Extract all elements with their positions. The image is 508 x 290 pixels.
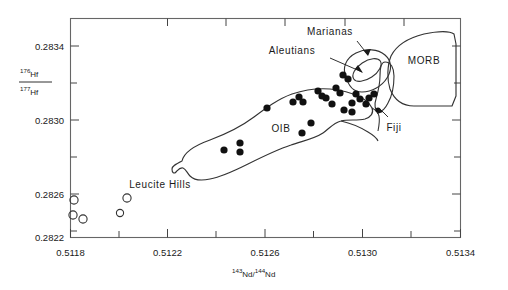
- x-title-base-nd1: Nd/: [242, 270, 255, 279]
- y-title-sup-177: 177: [20, 85, 31, 92]
- leader-arrowhead-marianas: [363, 49, 371, 56]
- label-marianas: Marianas: [307, 26, 353, 37]
- y-title-sup-176: 176: [20, 67, 31, 74]
- plot-frame: [71, 19, 461, 238]
- leader-line-fiji: [380, 109, 388, 117]
- x-axis-title: 143Nd/144Nd: [232, 267, 275, 279]
- data-point-filled: [340, 106, 347, 113]
- field-junction-stroke-2: [341, 121, 378, 141]
- x-title-sup-143: 143: [232, 267, 243, 274]
- svg-text:177Hf: 177Hf: [20, 85, 39, 97]
- data-points-filled: [220, 71, 380, 155]
- label-leucite-hills: Leucite Hills: [129, 179, 191, 190]
- data-point-filled: [314, 87, 321, 94]
- label-aleutians: Aleutians: [269, 45, 316, 56]
- data-point-filled: [348, 99, 355, 106]
- data-point-filled: [298, 129, 305, 136]
- label-oib: OIB: [271, 123, 290, 134]
- data-points-open: [69, 194, 131, 223]
- y-axis-title: 176Hf 177Hf: [19, 67, 52, 97]
- annotation-leaders: [330, 41, 388, 117]
- x-tick-label-4: 0.5134: [446, 247, 475, 258]
- x-tick-label-1: 0.5122: [153, 247, 182, 258]
- y-tick-label-3: 0.2822: [35, 232, 64, 243]
- y-title-base-hf1: Hf: [30, 70, 39, 79]
- data-point-open: [70, 196, 78, 204]
- field-outline-morb: [388, 32, 456, 106]
- field-outline-marianas: [344, 50, 390, 92]
- data-point-filled: [348, 108, 355, 115]
- y-tick-label-1: 0.2830: [35, 115, 64, 126]
- data-point-filled: [336, 89, 343, 96]
- isotope-scatter-plot: 0.2834 0.2830 0.2826 0.2822 0.5118 0.512…: [0, 0, 508, 290]
- x-tick-label-3: 0.5130: [348, 247, 377, 258]
- x-tick-label-2: 0.5126: [250, 247, 279, 258]
- data-point-open: [79, 215, 87, 223]
- x-tick-label-0: 0.5118: [56, 247, 84, 258]
- data-point-filled: [236, 148, 243, 155]
- label-morb: MORB: [408, 55, 440, 66]
- svg-text:176Hf: 176Hf: [20, 67, 39, 79]
- data-point-open: [116, 209, 123, 216]
- data-point-filled: [307, 119, 314, 126]
- label-fiji: Fiji: [386, 122, 401, 133]
- field-outline-oib: [172, 89, 373, 180]
- data-point-filled: [220, 146, 227, 153]
- y-tick-label-0: 0.2834: [35, 41, 64, 52]
- x-axis-ticks-top: [168, 19, 405, 27]
- x-title-sup-144: 144: [255, 267, 266, 274]
- data-point-filled: [344, 75, 351, 82]
- data-point-filled: [289, 98, 296, 105]
- svg-text:143Nd/144Nd: 143Nd/144Nd: [232, 267, 275, 279]
- data-point-filled: [236, 139, 243, 146]
- data-point-filled: [299, 98, 306, 105]
- y-tick-label-2: 0.2826: [35, 189, 64, 200]
- chart-figure: 0.2834 0.2830 0.2826 0.2822 0.5118 0.512…: [0, 0, 508, 290]
- data-point-filled: [328, 100, 335, 107]
- data-point-filled: [263, 104, 270, 111]
- data-point-filled: [370, 90, 377, 97]
- y-title-base-hf2: Hf: [30, 88, 39, 97]
- x-axis-ticks: [71, 229, 461, 238]
- x-title-base-nd2: Nd: [265, 270, 275, 279]
- data-point-open: [123, 194, 131, 202]
- data-point-filled: [356, 95, 363, 102]
